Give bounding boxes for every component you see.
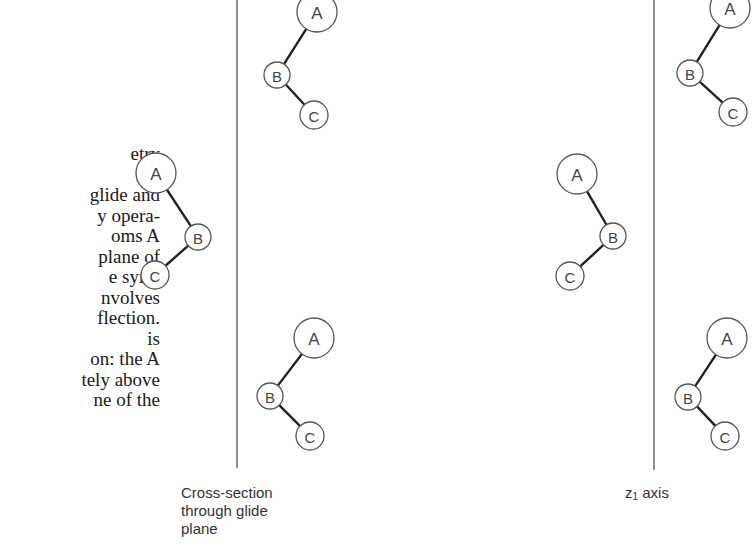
atom-b: B: [600, 223, 626, 249]
label-line: Cross-section: [181, 484, 273, 502]
atom-a: A: [710, 0, 750, 28]
bond-line: [278, 354, 302, 386]
atom-label: A: [311, 4, 323, 23]
z-text: z: [625, 484, 633, 501]
atom-label: B: [608, 229, 618, 246]
atom-label: A: [150, 165, 162, 184]
atom-c: C: [556, 262, 584, 290]
atom-label: B: [193, 230, 203, 247]
label-line: plane: [181, 520, 273, 538]
atom-label: C: [305, 429, 316, 446]
molecule-right-bottom: ABC: [675, 318, 747, 450]
atom-c: C: [141, 261, 169, 289]
molecule-mid-right: ABC: [556, 154, 626, 290]
bond-line: [697, 406, 715, 425]
atom-c: C: [300, 101, 328, 129]
atom-label: C: [720, 429, 731, 446]
atom-a: A: [557, 154, 597, 194]
atom-c: C: [719, 98, 747, 126]
symmetry-diagram: ABCABCABCABCABCABC: [0, 0, 752, 549]
atom-a: A: [136, 153, 176, 193]
atom-c: C: [711, 422, 739, 450]
atom-c: C: [296, 422, 324, 450]
z1-axis-label: z1 axis: [625, 484, 669, 506]
molecule-center-bottom: ABC: [257, 318, 334, 450]
atom-b: B: [257, 383, 283, 409]
atom-label: B: [265, 389, 275, 406]
atom-b: B: [677, 60, 703, 86]
atom-label: C: [309, 108, 320, 125]
bond-line: [286, 85, 305, 105]
molecule-left: ABC: [136, 153, 211, 289]
molecule-center-top: ABC: [264, 0, 337, 129]
atom-b: B: [185, 224, 211, 250]
atom-a: A: [707, 318, 747, 358]
axis-text: axis: [638, 484, 669, 501]
bond-line: [165, 246, 188, 266]
bond-line: [167, 190, 191, 226]
bond-line: [700, 82, 723, 103]
atom-label: A: [724, 0, 736, 19]
cross-section-label: Cross-section through glide plane: [181, 484, 273, 538]
label-line: through glide: [181, 502, 273, 520]
atom-label: A: [308, 330, 320, 349]
atom-label: C: [565, 269, 576, 286]
atom-label: C: [728, 105, 739, 122]
atom-label: B: [683, 390, 693, 407]
atom-label: C: [150, 268, 161, 285]
bond-line: [284, 29, 306, 64]
atom-a: A: [297, 0, 337, 32]
bond-line: [580, 245, 603, 267]
atom-label: B: [272, 68, 282, 85]
atom-a: A: [294, 318, 334, 358]
molecules-group: ABCABCABCABCABCABC: [136, 0, 750, 450]
atom-label: A: [571, 166, 583, 185]
atom-b: B: [264, 62, 290, 88]
bond-line: [587, 191, 606, 224]
bond-line: [695, 355, 716, 386]
bond-line: [697, 25, 720, 62]
atom-label: B: [685, 66, 695, 83]
atom-b: B: [675, 384, 701, 410]
atom-label: A: [721, 330, 733, 349]
molecule-right-top: ABC: [677, 0, 750, 126]
bond-line: [279, 405, 300, 426]
